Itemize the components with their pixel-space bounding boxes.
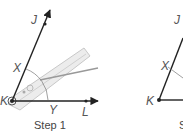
step-1-caption: Step 1 [34, 119, 66, 131]
label-x: X [12, 61, 22, 75]
step-2-figure: J X K Step 2 [146, 13, 183, 131]
label-x-2: X [160, 59, 170, 73]
step-1-figure: J X K Y L Step 1 [0, 10, 98, 131]
label-y: Y [49, 103, 58, 117]
label-k-2: K [146, 94, 155, 108]
label-j: J [30, 13, 38, 27]
label-k: K [0, 94, 9, 108]
construction-diagram: J X K Y L Step 1 J X K Step 2 [0, 0, 183, 132]
step-2-caption: Step 2 [179, 119, 183, 131]
label-l: L [82, 105, 89, 119]
label-j-2: J [173, 13, 181, 27]
